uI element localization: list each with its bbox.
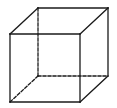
cube-diagram	[0, 0, 117, 108]
hidden-edge-2	[10, 76, 38, 102]
visible-edge-6	[80, 8, 108, 34]
visible-edge-4	[10, 8, 38, 34]
visible-edge-8	[80, 76, 108, 102]
